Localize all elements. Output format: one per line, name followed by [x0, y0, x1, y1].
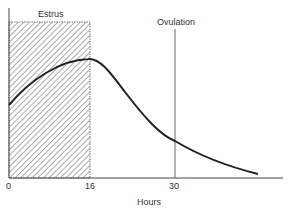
x-axis-label: Hours	[137, 197, 161, 207]
diagram-canvas	[0, 0, 290, 211]
tick-16: 16	[85, 181, 95, 191]
tick-30: 30	[169, 181, 179, 191]
ovulation-label: Ovulation	[157, 17, 195, 27]
estrus-region	[9, 22, 90, 178]
estrus-label: Estrus	[38, 9, 64, 19]
tick-0: 0	[6, 181, 11, 191]
